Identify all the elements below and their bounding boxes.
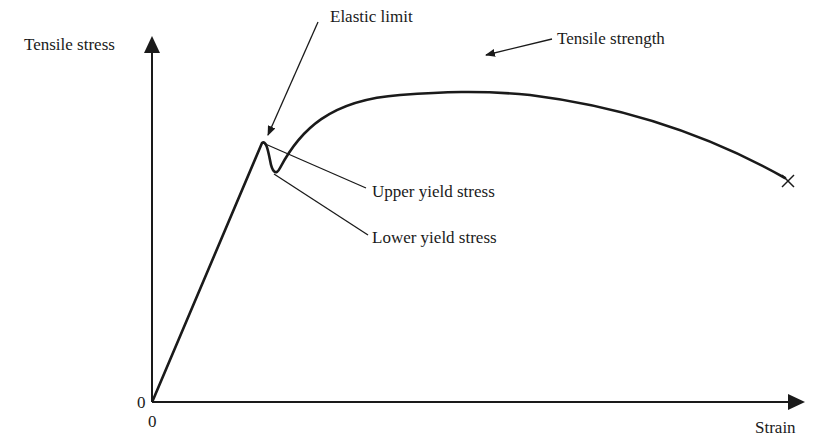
y-origin-label: 0 bbox=[137, 393, 146, 412]
fracture-x-icon bbox=[782, 175, 794, 187]
x-origin-label: 0 bbox=[148, 412, 157, 431]
x-axis-arrow-icon bbox=[788, 394, 805, 410]
y-axis-label: Tensile stress bbox=[24, 35, 115, 54]
x-axis-label: Strain bbox=[755, 418, 796, 437]
upper-yield-label: Upper yield stress bbox=[372, 182, 495, 201]
elastic-limit-label: Elastic limit bbox=[330, 7, 413, 26]
elastic-limit-leader bbox=[268, 22, 318, 135]
upper-yield-leader bbox=[263, 143, 366, 188]
stress-strain-diagram: Tensile stress Strain 0 0 Elastic limit … bbox=[0, 0, 822, 445]
y-axis bbox=[144, 36, 160, 402]
y-axis-arrow-icon bbox=[144, 36, 160, 53]
x-axis bbox=[152, 394, 805, 410]
lower-yield-label: Lower yield stress bbox=[372, 228, 497, 247]
tensile-strength-label: Tensile strength bbox=[557, 29, 665, 48]
tensile-strength-leader bbox=[486, 39, 552, 55]
